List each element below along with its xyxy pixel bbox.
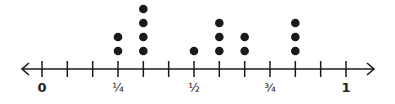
tick-label: ¼ xyxy=(112,81,124,95)
data-dot xyxy=(291,47,300,56)
data-dot xyxy=(139,47,148,56)
data-dot xyxy=(215,33,224,42)
tick-label: ¾ xyxy=(264,81,276,95)
data-dot xyxy=(114,47,123,56)
data-dot xyxy=(215,19,224,28)
data-dots xyxy=(114,5,300,56)
dot-plot: 0¼½¾1 xyxy=(0,0,395,104)
data-dot xyxy=(139,19,148,28)
tick-label: ½ xyxy=(188,81,200,95)
data-dot xyxy=(114,33,123,42)
data-dot xyxy=(215,47,224,56)
data-dot xyxy=(291,19,300,28)
data-dot xyxy=(291,33,300,42)
data-dot xyxy=(240,47,249,56)
tick-label: 1 xyxy=(341,80,350,95)
tick-label: 0 xyxy=(37,80,46,95)
data-dot xyxy=(240,33,249,42)
data-dot xyxy=(190,47,199,56)
tick-labels: 0¼½¾1 xyxy=(37,80,350,95)
data-dot xyxy=(139,33,148,42)
data-dot xyxy=(139,5,148,14)
